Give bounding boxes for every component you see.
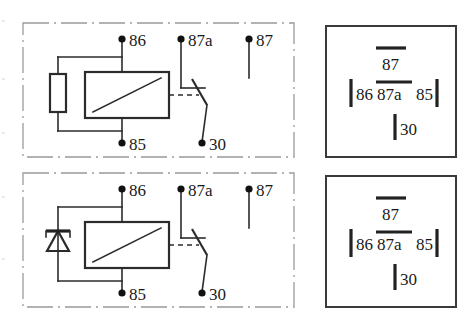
terminal-dot-86 <box>118 185 125 192</box>
pin-label-85: 85 <box>416 85 433 104</box>
terminal-label-30: 30 <box>209 285 226 304</box>
pin-label-30: 30 <box>400 270 417 289</box>
terminal-label-87: 87 <box>256 181 274 200</box>
terminal-label-87a: 87a <box>188 31 213 50</box>
terminal-dot-85 <box>118 139 125 146</box>
switch-armature-blade <box>192 79 207 105</box>
terminal-dot-86 <box>118 35 125 42</box>
scan-artifact <box>2 78 5 80</box>
terminal-dot-30 <box>198 289 205 296</box>
terminal-label-86: 86 <box>129 31 146 50</box>
relay-panel-bottom: 86 87a 87 85 30 87 86 87a 85 30 <box>0 163 465 325</box>
scan-artifact <box>2 258 5 260</box>
terminal-label-87a: 87a <box>188 181 213 200</box>
pin-label-87: 87 <box>382 55 400 74</box>
scan-artifact <box>2 196 5 198</box>
relay-diagram-figure: 86 87a 87 85 30 87 86 87a 85 <box>0 0 465 325</box>
terminal-label-30: 30 <box>209 135 226 154</box>
terminal-dot-30 <box>198 139 205 146</box>
terminal-dot-87a <box>177 185 184 192</box>
pin-label-87a: 87a <box>377 85 402 104</box>
pin-label-86: 86 <box>356 85 373 104</box>
terminal-dot-85 <box>118 289 125 296</box>
terminal-dot-87 <box>245 185 252 192</box>
pin-label-87a: 87a <box>377 235 402 254</box>
switch-armature-blade <box>192 229 207 255</box>
wire-armature-to-30 <box>202 255 207 292</box>
terminal-dot-87a <box>177 35 184 42</box>
relay-panel-top: 86 87a 87 85 30 87 86 87a 85 <box>0 0 465 163</box>
scan-artifact <box>2 20 5 22</box>
relay-panel-top-canvas: 86 87a 87 85 30 87 86 87a 85 <box>0 0 465 163</box>
wire-armature-to-30 <box>202 105 207 142</box>
pin-label-87: 87 <box>382 205 400 224</box>
resistor-symbol <box>50 74 66 112</box>
terminal-label-87: 87 <box>256 31 274 50</box>
relay-panel-bottom-canvas: 86 87a 87 85 30 87 86 87a 85 30 <box>0 163 465 325</box>
terminal-dot-87 <box>245 35 252 42</box>
pin-label-85: 85 <box>416 235 433 254</box>
scan-artifact <box>2 132 5 134</box>
terminal-label-85: 85 <box>129 285 146 304</box>
terminal-label-86: 86 <box>129 181 146 200</box>
terminal-label-85: 85 <box>129 135 146 154</box>
pin-label-86: 86 <box>356 235 373 254</box>
pin-label-30: 30 <box>400 120 417 139</box>
